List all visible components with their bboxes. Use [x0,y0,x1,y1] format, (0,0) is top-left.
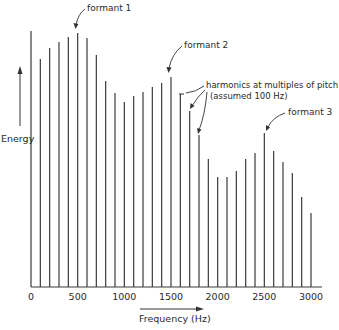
harmonic-bars [31,31,311,287]
x-arrowhead-icon [196,307,204,312]
x-tick-label: 1500 [159,291,183,302]
x-tick-label: 1000 [112,291,136,302]
formant2-arrowhead-icon [167,67,172,73]
annotation-harmonics-pitch: (assumed 100 Hz) [210,91,287,101]
x-tick-labels: 050010001500200025003000 [28,291,323,302]
x-tick-label: 0 [28,291,34,302]
x-tick-label: 2000 [206,291,230,302]
harmonics-arrow1-icon [186,86,204,93]
formant3-arrowhead-icon [266,125,270,131]
harmonics-arrow2-icon [192,90,205,106]
annotation-formant-1: formant 1 [87,3,131,13]
formant1-arrowhead-icon [74,23,79,29]
x-tick-label: 2500 [252,291,276,302]
annotation-formant-2: formant 2 [184,40,228,50]
x-tick-label: 3000 [299,291,323,302]
x-tick-label: 500 [69,291,87,302]
spectrum-chart: 050010001500200025003000 Energy Frequenc… [0,0,339,330]
annotation-harmonics: harmonics at multiples of pitch [206,80,338,90]
y-axis-label: Energy [1,133,35,144]
x-axis-label: Frequency (Hz) [139,313,211,324]
harmonics-arrow3-icon [199,92,207,130]
formant3-arrow-icon [268,113,285,127]
y-arrowhead-icon [18,66,23,74]
harmonics-arrowhead3-icon [197,128,202,134]
formant2-arrow-icon [169,46,182,68]
formant1-arrow-icon [76,9,85,25]
annotation-formant-3: formant 3 [288,107,332,117]
